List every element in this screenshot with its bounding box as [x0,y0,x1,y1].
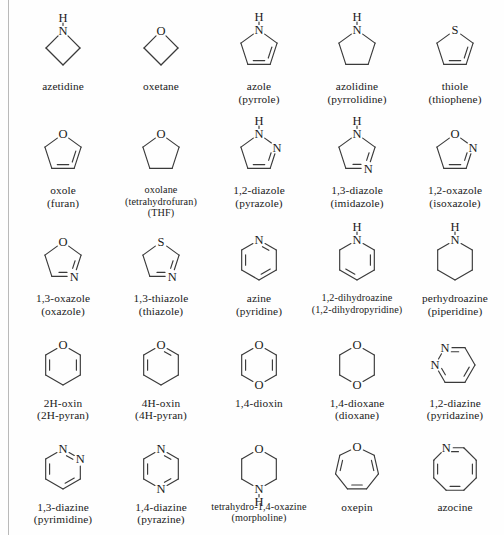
compound-cell-12-dihydroazine: NH1,2-dihydroazine(1,2-dihydropyridine) [308,218,406,322]
structure-tetrahydro-14-oxazine: ONH [213,433,305,499]
structure-thiole: S [409,12,501,78]
systematic-name: 1,2-dihydroazine [312,292,403,303]
svg-text:O: O [352,378,361,392]
systematic-name: perhydroazine [422,292,488,305]
systematic-name: 1,4-dioxane [330,397,385,410]
structure-azine: N [213,224,305,290]
svg-text:N: N [352,23,361,37]
common-name: (imidazole) [330,197,383,210]
compound-cell-14-dioxane: OO1,4-dioxane(dioxane) [308,323,406,427]
compound-cell-oxetane: Ooxetane [112,6,210,110]
systematic-name: azole [238,80,279,93]
systematic-name: thiole [428,80,481,93]
compound-cell-12-oxazole: ON1,2-oxazole(isoxazole) [406,110,504,218]
common-name: (morpholine) [211,512,306,523]
systematic-name: 1,4-diazine [135,501,187,514]
label-2h-oxin: 2H-oxin(2H-pyran) [37,397,89,422]
systematic-name: 1,3-diazine [34,501,92,514]
label-12-oxazole: 1,2-oxazole(isoxazole) [428,184,482,209]
abbreviation-name: (THF) [125,207,197,218]
structure-azetidine: NH [17,12,109,78]
svg-text:O: O [58,128,67,142]
svg-text:O: O [254,378,263,392]
structure-14-diazine: NN [115,433,207,499]
svg-text:O: O [156,24,165,38]
common-name: (isoxazole) [428,197,482,210]
label-oxepin: oxepin [341,501,372,514]
figure-page: NHazetidineOoxetaneNHazole(pyrrole)NHazo… [0,0,504,535]
systematic-name: 1,3-thiazole [134,292,189,305]
compound-cell-13-diazole: NHN1,3-diazole(imidazole) [308,110,406,218]
svg-text:S: S [158,236,165,250]
common-name: (pyrimidine) [34,513,92,526]
compound-cell-13-diazine: NN1,3-diazine(pyrimidine) [14,427,112,531]
structure-14-dioxin: OO [213,329,305,395]
systematic-name: azetidine [42,80,84,93]
compound-cell-azolidine: NHazolidine(pyrrolidine) [308,6,406,110]
label-13-diazole: 1,3-diazole(imidazole) [330,184,383,209]
compound-cell-13-oxazole: ON1,3-oxazole(oxazole) [14,218,112,322]
compound-cell-14-dioxin: OO1,4-dioxin [210,323,308,427]
structure-oxole: O [17,116,109,182]
label-azolidine: azolidine(pyrrolidine) [327,80,386,105]
systematic-name: azocine [437,501,472,514]
systematic-name: azolidine [327,80,386,93]
label-azocine: azocine [437,501,472,514]
svg-text:N: N [469,141,478,155]
svg-text:N: N [254,234,263,248]
compound-cell-oxolane: Ooxolane(tetrahydrofuran)(THF) [112,110,210,218]
common-name: (furan) [47,197,79,210]
svg-text:O: O [156,128,165,142]
common-name: (oxazole) [36,305,90,318]
svg-text:N: N [352,234,361,248]
systematic-name: 1,4-dioxin [235,397,283,410]
structure-oxolane: O [115,116,207,182]
structure-4h-oxin: O [115,329,207,395]
label-13-oxazole: 1,3-oxazole(oxazole) [36,292,90,317]
systematic-name: 1,3-diazole [330,184,383,197]
common-name: (pyrrole) [238,93,279,106]
svg-text:N: N [442,441,451,455]
svg-text:O: O [58,236,67,250]
common-name: (tetrahydrofuran) [125,196,197,207]
label-14-dioxin: 1,4-dioxin [235,397,283,410]
systematic-name: oxetane [143,80,179,93]
svg-text:O: O [450,128,459,142]
systematic-name: 4H-oxin [135,397,187,410]
label-13-diazine: 1,3-diazine(pyrimidine) [34,501,92,526]
label-oxole: oxole(furan) [47,184,79,209]
common-name: (1,2-dihydropyridine) [312,304,403,315]
systematic-name: 1,2-diazole [233,184,285,197]
svg-text:N: N [430,358,439,372]
compound-cell-azocine: Nazocine [406,427,504,531]
svg-text:N: N [76,452,85,466]
label-4h-oxin: 4H-oxin(4H-pyran) [135,397,187,422]
svg-text:N: N [58,442,67,456]
svg-text:S: S [452,23,459,37]
label-azine: azine(pyridine) [236,292,282,317]
common-name: (4H-pyran) [135,409,187,422]
compound-cell-thiole: Sthiole(thiophene) [406,6,504,110]
systematic-name: azine [236,292,282,305]
systematic-name: 2H-oxin [37,397,89,410]
systematic-name: oxepin [341,501,372,514]
svg-text:O: O [156,338,165,352]
structure-13-diazine: NN [17,433,109,499]
structure-perhydroazine: NH [409,224,501,290]
label-azetidine: azetidine [42,80,84,93]
compound-cell-azetidine: NHazetidine [14,6,112,110]
compound-cell-2h-oxin: O2H-oxin(2H-pyran) [14,323,112,427]
structure-12-oxazole: ON [409,116,501,182]
svg-text:O: O [254,442,263,456]
svg-text:N: N [254,128,263,142]
svg-text:O: O [352,338,361,352]
label-14-dioxane: 1,4-dioxane(dioxane) [330,397,385,422]
compound-cell-oxepin: Ooxepin [308,427,406,531]
systematic-name: 1,3-oxazole [36,292,90,305]
systematic-name: oxole [47,184,79,197]
systematic-name: 1,2-diazine [427,397,483,410]
structure-azolidine: NH [311,12,403,78]
structure-14-dioxane: OO [311,329,403,395]
svg-text:N: N [70,270,79,284]
compound-cell-12-diazole: NHN1,2-diazole(pyrazole) [210,110,308,218]
